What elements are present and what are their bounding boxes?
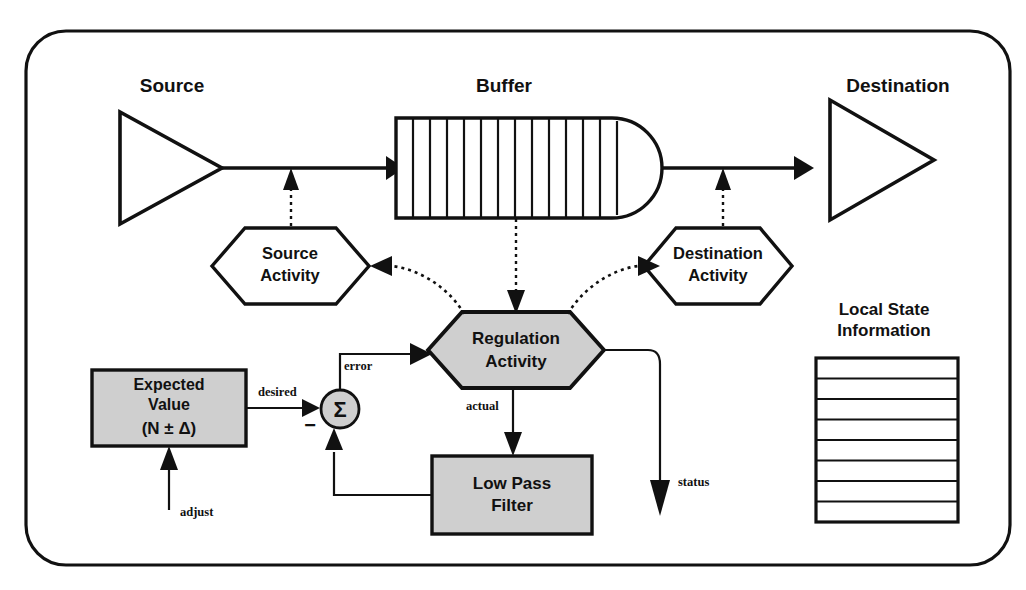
local-state-label-line1: Local State	[839, 300, 930, 319]
error-label: error	[344, 359, 373, 373]
summation-minus-sign: −	[304, 414, 316, 436]
expected-value-label-line1: Expected	[133, 376, 204, 393]
regulation-flow-diagram: Source Buffer Destination Source Activit…	[0, 0, 1026, 590]
expected-value-label-line2: Value	[148, 396, 190, 413]
desired-label: desired	[258, 385, 297, 399]
actual-label: actual	[466, 399, 499, 413]
buffer-node[interactable]	[396, 118, 662, 218]
expected-value-label-line3: (N ± Δ)	[142, 419, 197, 438]
regulation-activity-label-line2: Activity	[485, 352, 547, 371]
status-label: status	[678, 475, 709, 489]
low-pass-filter-label-line2: Filter	[491, 496, 533, 515]
destination-label: Destination	[846, 75, 949, 96]
source-activity-label-line2: Activity	[260, 266, 320, 284]
low-pass-filter-node[interactable]	[432, 456, 592, 534]
destination-activity-label-line2: Activity	[688, 266, 748, 284]
regulation-activity-node[interactable]	[428, 312, 604, 388]
source-activity-label-line1: Source	[262, 244, 318, 262]
source-label: Source	[140, 75, 204, 96]
low-pass-filter-label-line1: Low Pass	[473, 474, 551, 493]
diagram-canvas: Source Buffer Destination Source Activit…	[0, 0, 1026, 590]
local-state-label-line2: Information	[837, 321, 931, 340]
destination-activity-label-line1: Destination	[673, 244, 763, 262]
buffer-label: Buffer	[476, 75, 533, 96]
adjust-label: adjust	[180, 505, 214, 519]
regulation-activity-label-line1: Regulation	[472, 329, 560, 348]
summation-sigma-label: Σ	[333, 397, 346, 422]
